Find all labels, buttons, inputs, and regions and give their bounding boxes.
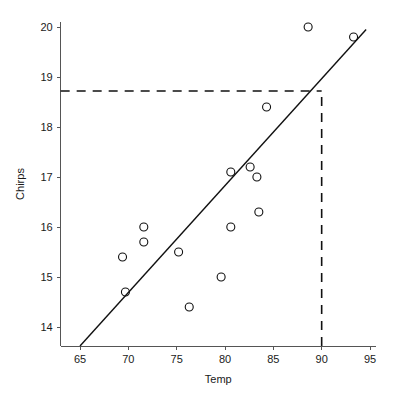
data-point-marker: [350, 33, 358, 41]
data-point-marker: [217, 273, 225, 281]
data-point-marker: [304, 23, 312, 31]
x-tick-label: 75: [171, 353, 183, 365]
axis-labels: 1415161718192065707580859095TempChirps: [14, 21, 376, 385]
regression-line: [80, 30, 366, 347]
data-point-marker: [246, 163, 254, 171]
y-tick-label: 20: [40, 21, 52, 33]
data-point-marker: [255, 208, 263, 216]
x-tick-label: 65: [74, 353, 86, 365]
y-tick-label: 17: [40, 171, 52, 183]
x-tick-label: 80: [219, 353, 231, 365]
x-tick-label: 95: [364, 353, 376, 365]
scatter-plot: 1415161718192065707580859095TempChirps: [0, 0, 393, 393]
chart-container: 1415161718192065707580859095TempChirps: [0, 0, 393, 393]
y-tick-label: 14: [40, 321, 52, 333]
y-tick-label: 15: [40, 271, 52, 283]
x-tick-label: 90: [316, 353, 328, 365]
data-point-marker: [175, 248, 183, 256]
y-tick-label: 18: [40, 121, 52, 133]
data-point-marker: [227, 168, 235, 176]
data-point-marker: [263, 103, 271, 111]
y-tick-label: 16: [40, 221, 52, 233]
x-axis-title: Temp: [205, 373, 232, 385]
prediction-guides: [61, 91, 322, 346]
x-tick-label: 85: [267, 353, 279, 365]
data-point-marker: [227, 223, 235, 231]
data-point-marker: [140, 223, 148, 231]
regression-line-segment: [80, 30, 366, 347]
y-axis-title: Chirps: [14, 168, 26, 200]
data-point-marker: [253, 173, 261, 181]
data-point-marker: [185, 303, 193, 311]
data-point-marker: [140, 238, 148, 246]
y-tick-label: 19: [40, 71, 52, 83]
x-tick-label: 70: [122, 353, 134, 365]
data-point-marker: [119, 253, 127, 261]
